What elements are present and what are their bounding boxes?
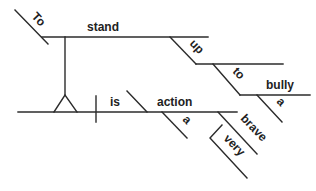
subject-pedestal [54,37,77,112]
word-is: is [110,95,120,109]
predicate-complement-divider [127,91,147,112]
word-a-action: a [180,112,195,127]
pedestal-triangle [54,95,77,112]
word-a-bully: a [274,94,289,109]
word-stand: stand [87,20,119,34]
sentence-diagram: To stand up to bully a is action a brave… [0,0,316,191]
word-action: action [157,95,192,109]
word-to-infinitive: To [29,9,49,29]
word-bully: bully [266,78,294,92]
main-clause: is action a brave very [18,91,270,178]
word-to-preposition: to [230,64,248,82]
word-up: up [187,36,207,56]
